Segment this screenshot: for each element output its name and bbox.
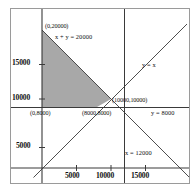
annotation-vertex-8000-8000: (8000,8000) xyxy=(82,109,111,116)
annotation-vertex-0-8000: (0,8000) xyxy=(30,109,50,116)
y-tick-label-10000: 10000 xyxy=(12,94,30,102)
y-tick-label-5000: 5000 xyxy=(16,142,30,150)
chart-container: 15000 10000 5000 5000 10000 15000 (0,200… xyxy=(0,0,193,191)
annotation-line-label-yx: y = x xyxy=(142,61,156,68)
annotation-vertex-0-20000: (0,20000) xyxy=(45,22,68,29)
annotation-line-label-x12000: x = 12000 xyxy=(125,149,152,156)
annotation-line-label-y8000: y = 8000 xyxy=(151,109,175,116)
x-tick-label-10000: 10000 xyxy=(96,172,114,180)
annotation-line-label-sum: x + y = 20000 xyxy=(55,33,92,40)
x-tick-label-15000: 15000 xyxy=(131,172,149,180)
annotation-vertex-10000-10000: (10000,10000) xyxy=(112,96,147,103)
y-tick-label-15000: 15000 xyxy=(12,59,30,67)
feasible-region-shape xyxy=(42,30,111,107)
x-tick-label-5000: 5000 xyxy=(65,172,79,180)
plot-frame: 15000 10000 5000 5000 10000 15000 (0,200… xyxy=(10,8,190,184)
plot-svg xyxy=(11,9,189,183)
